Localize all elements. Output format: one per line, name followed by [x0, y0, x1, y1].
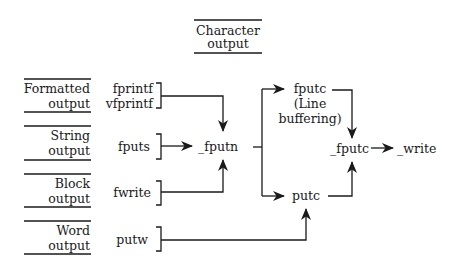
write-label: _write	[397, 141, 436, 156]
fprintf-label: fprintf	[113, 81, 155, 96]
character-output-label-line2: output	[207, 36, 249, 51]
formatted-to-fputn-arrow	[161, 96, 223, 131]
fputn-label: _fputn	[198, 139, 238, 154]
string-output-label-line1: String	[50, 128, 90, 143]
string-output-label-line2: output	[48, 143, 90, 158]
putw-to-putc-arrow	[161, 209, 306, 240]
word-output-label-line2: output	[48, 238, 90, 253]
fputs-bracket	[156, 134, 161, 159]
putc-label: putc	[292, 188, 320, 203]
putw-label: putw	[116, 232, 148, 247]
fputc-note-line2: buffering)	[278, 111, 341, 126]
character-output-box: Character output	[194, 20, 262, 53]
fwrite-to-fputn-arrow	[161, 160, 223, 192]
fputc-note-line1: (Line	[294, 96, 327, 111]
formatted-output-box: Formatted output	[24, 79, 91, 112]
fprintf-bracket	[156, 83, 161, 108]
formatted-output-label-line1: Formatted	[24, 81, 90, 96]
fwrite-bracket	[156, 181, 161, 205]
block-output-box: Block output	[24, 174, 91, 207]
fputc-label: fputc	[294, 81, 327, 96]
string-output-box: String output	[24, 126, 91, 160]
word-output-box: Word output	[24, 221, 91, 254]
fputs-label: fputs	[118, 139, 150, 154]
putw-bracket	[156, 227, 161, 251]
block-output-label-line1: Block	[55, 176, 91, 191]
word-output-label-line1: Word	[56, 223, 90, 238]
_fputc-label: _fputc	[330, 141, 369, 156]
block-output-label-line2: output	[48, 191, 90, 206]
fwrite-label: fwrite	[113, 185, 151, 200]
stdio-output-call-diagram: Character output Formatted output String…	[0, 0, 459, 271]
vfprintf-label: vfprintf	[105, 96, 155, 111]
formatted-output-label-line2: output	[48, 96, 90, 111]
putc-to-_fputc-arrow	[328, 162, 352, 196]
